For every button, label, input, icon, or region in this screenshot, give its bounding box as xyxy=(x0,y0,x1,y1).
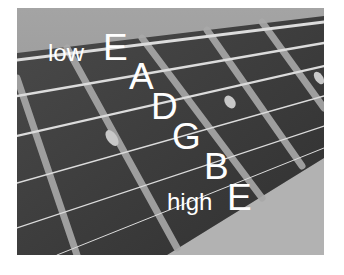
string-label-high-e: E xyxy=(227,179,252,216)
fretboard-photo: low E A D G B high E xyxy=(17,8,324,255)
low-label: low xyxy=(48,41,84,65)
high-label: high xyxy=(167,190,212,214)
string-label-a: A xyxy=(129,58,154,95)
string-label-b: B xyxy=(204,148,229,185)
string-label-g: G xyxy=(172,118,201,155)
string-label-low-e: E xyxy=(103,29,128,66)
